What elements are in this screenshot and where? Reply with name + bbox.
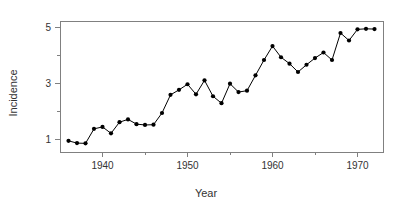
- y-tick-label: 5: [45, 22, 51, 33]
- data-point: [270, 44, 274, 48]
- y-tick-label: 3: [45, 78, 51, 89]
- data-point: [117, 120, 121, 124]
- data-point: [330, 58, 334, 62]
- data-point: [83, 141, 87, 145]
- data-point: [364, 27, 368, 31]
- plot-frame: [60, 21, 383, 152]
- chart-container: 1940195019601970 135 Year Incidence: [0, 0, 405, 211]
- data-point: [134, 122, 138, 126]
- data-point: [219, 101, 223, 105]
- x-axis-ticks: [103, 152, 358, 157]
- data-point: [304, 63, 308, 67]
- data-point: [151, 123, 155, 127]
- data-point: [143, 123, 147, 127]
- x-tick-label: 1960: [261, 160, 284, 171]
- data-point: [236, 90, 240, 94]
- data-point: [228, 82, 232, 86]
- y-axis-title: Incidence: [7, 69, 19, 116]
- data-point: [287, 62, 291, 66]
- data-point: [109, 131, 113, 135]
- x-tick-label: 1950: [176, 160, 199, 171]
- x-tick-label: 1940: [91, 160, 114, 171]
- data-point: [355, 27, 359, 31]
- data-point: [194, 92, 198, 96]
- data-point: [92, 127, 96, 131]
- data-point: [347, 38, 351, 42]
- incidence-line-chart: 1940195019601970 135 Year Incidence: [0, 0, 405, 211]
- data-point: [296, 70, 300, 74]
- data-point: [66, 139, 70, 143]
- data-point: [177, 88, 181, 92]
- data-point: [372, 27, 376, 31]
- data-point: [168, 93, 172, 97]
- data-point: [75, 141, 79, 145]
- data-point: [126, 117, 130, 121]
- data-point: [100, 125, 104, 129]
- data-point: [253, 73, 257, 77]
- y-axis-ticks: [55, 28, 60, 139]
- data-point: [245, 89, 249, 93]
- y-axis-tick-labels: 135: [45, 22, 51, 144]
- x-axis-tick-labels: 1940195019601970: [91, 160, 369, 171]
- x-axis-title: Year: [195, 187, 218, 199]
- data-point: [211, 94, 215, 98]
- data-point: [160, 111, 164, 115]
- y-tick-label: 1: [45, 134, 51, 145]
- data-point: [313, 56, 317, 60]
- data-point: [262, 58, 266, 62]
- x-tick-label: 1970: [346, 160, 369, 171]
- series-incidence: [69, 29, 375, 144]
- data-point: [321, 50, 325, 54]
- data-point: [338, 31, 342, 35]
- data-point: [279, 55, 283, 59]
- data-point: [185, 82, 189, 86]
- data-point: [202, 78, 206, 82]
- series-data-points: [66, 27, 376, 146]
